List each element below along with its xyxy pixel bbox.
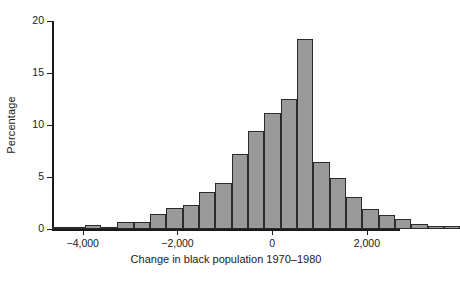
histogram-bar xyxy=(297,39,313,229)
histogram-bar xyxy=(117,222,133,229)
histogram-bar xyxy=(85,225,101,229)
histogram-bar xyxy=(150,214,166,229)
histogram-bar xyxy=(52,227,68,229)
histogram-bar xyxy=(330,178,346,229)
histogram-bar xyxy=(134,222,150,229)
x-tick-label: −2,000 xyxy=(161,237,193,250)
histogram-bar xyxy=(395,219,411,229)
histogram-bar xyxy=(199,192,215,229)
x-tick xyxy=(367,230,368,235)
histogram-bar xyxy=(68,227,84,229)
histogram-bar xyxy=(346,197,362,229)
histogram-bar xyxy=(183,205,199,229)
histogram-bar xyxy=(362,209,378,229)
plot-area: 05101520 −4,000−2,00002,000 xyxy=(52,21,400,229)
y-tick-label: 15 xyxy=(32,66,44,79)
histogram-bar xyxy=(444,226,460,229)
x-tick xyxy=(177,230,178,235)
histogram-bar xyxy=(428,226,444,229)
histogram-bar xyxy=(264,113,280,229)
histogram-bar xyxy=(313,162,329,229)
x-tick-label: 0 xyxy=(269,237,275,250)
histogram-bar xyxy=(232,154,248,229)
histogram-bars xyxy=(52,21,400,229)
y-axis-title: Percentage xyxy=(0,21,22,229)
histogram-bar xyxy=(215,183,231,229)
histogram-bar xyxy=(248,131,264,229)
histogram-bar xyxy=(166,208,182,229)
y-tick: 0 xyxy=(47,229,52,230)
x-tick-label: −4,000 xyxy=(67,237,99,250)
y-tick-label: 20 xyxy=(32,14,44,27)
histogram-bar xyxy=(411,224,427,229)
x-axis-line xyxy=(52,229,400,231)
x-tick-label: 2,000 xyxy=(354,237,380,250)
x-tick xyxy=(272,230,273,235)
y-tick-label: 10 xyxy=(32,118,44,131)
histogram-bar xyxy=(101,227,117,229)
x-tick xyxy=(83,230,84,235)
x-axis-title: Change in black population 1970–1980 xyxy=(52,252,400,266)
y-tick-label: 5 xyxy=(38,170,44,183)
y-tick-label: 0 xyxy=(38,222,44,235)
histogram-bar xyxy=(379,215,395,229)
histogram-bar xyxy=(281,99,297,229)
